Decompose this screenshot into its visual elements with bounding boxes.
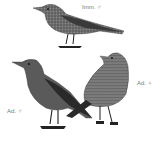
immature-male-bird <box>33 4 124 48</box>
adult-female-bird <box>66 53 129 125</box>
plate-illustration <box>0 0 162 143</box>
bird-plate: Imm. ♂ Ad. ♂ Ad. ♀ <box>0 0 162 143</box>
label-immature-male: Imm. ♂ <box>82 4 102 10</box>
adult-male-bird <box>12 59 92 129</box>
label-adult-male: Ad. ♂ <box>7 108 22 114</box>
label-adult-female: Ad. ♀ <box>137 80 152 86</box>
